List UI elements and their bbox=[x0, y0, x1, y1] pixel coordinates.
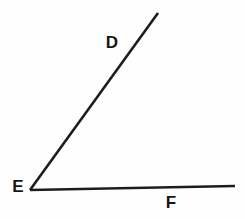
point-label-e: E bbox=[12, 178, 23, 195]
angle-diagram: E D F bbox=[0, 0, 245, 219]
point-label-f: F bbox=[166, 194, 176, 211]
ray-ED bbox=[30, 13, 158, 190]
point-label-d: D bbox=[106, 34, 118, 51]
ray-EF bbox=[30, 186, 235, 190]
angle-rays-canvas bbox=[0, 0, 245, 219]
